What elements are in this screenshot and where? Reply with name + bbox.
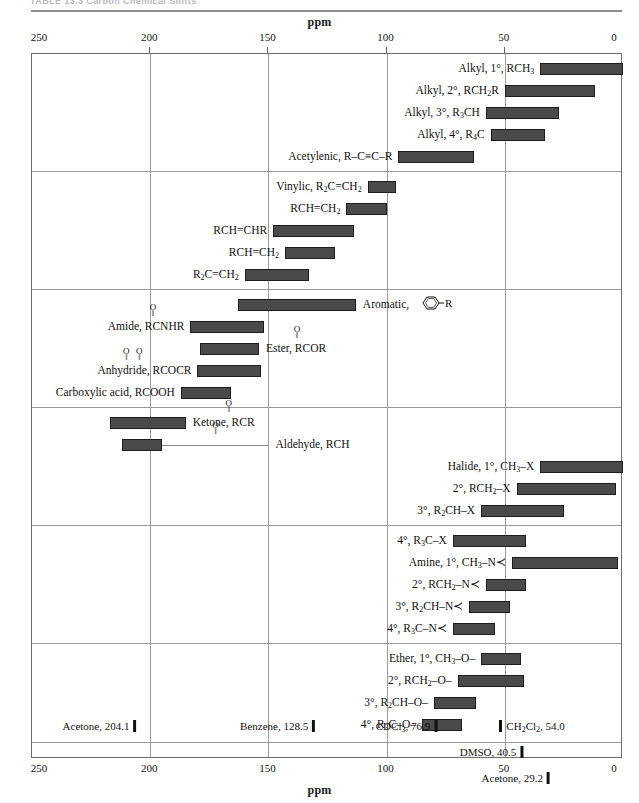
solvent-reference: CH2Cl2, 54.0 bbox=[495, 720, 564, 734]
chart-row: 3°, R2CH–O– bbox=[32, 692, 621, 714]
chart-row: 3°, R2CH–N≺ bbox=[32, 596, 621, 618]
chart-row: Vinylic, R2C=CH2 bbox=[32, 176, 621, 198]
solvent-reference: DMSO, 40.5 bbox=[460, 746, 528, 758]
row-label: Acetylenic, R–C≡C–R bbox=[288, 149, 392, 164]
range-bar bbox=[200, 343, 259, 355]
row-label: Alkyl, 2°, RCH2R bbox=[415, 83, 498, 101]
axis-tick-label-150: 150 bbox=[259, 762, 276, 774]
solvent-label: Acetone, 29.2 bbox=[482, 772, 543, 784]
range-bar bbox=[540, 461, 623, 473]
solvent-tick-mark bbox=[134, 720, 137, 732]
chart-row: 4°, R3C–N≺ bbox=[32, 618, 621, 640]
section-divider bbox=[32, 643, 621, 644]
range-bar bbox=[512, 557, 618, 569]
leader-line bbox=[162, 445, 268, 446]
range-bar bbox=[197, 365, 261, 377]
axis-tick-label-0: 0 bbox=[611, 762, 617, 774]
axis-title-bottom: ppm bbox=[0, 783, 639, 798]
axis-tick-label-100: 100 bbox=[377, 31, 394, 43]
row-label: RCH=CH2 bbox=[229, 245, 279, 263]
solvent-label: Acetone, 204.1 bbox=[63, 720, 130, 732]
range-bar bbox=[453, 623, 496, 635]
chart-row: Halide, 1°, CH3–X bbox=[32, 456, 621, 478]
solvent-reference: Acetone, 204.1 bbox=[63, 720, 141, 732]
range-bar bbox=[453, 535, 526, 547]
chart-row: RCH=CH2 bbox=[32, 198, 621, 220]
carbonyl-group-icon: O‖ bbox=[148, 304, 158, 317]
chart-row: Amine, 1°, CH3–N≺ bbox=[32, 552, 621, 574]
chart-row: Alkyl, 3°, R3CH bbox=[32, 102, 621, 124]
solvent-reference: CDCl3, 76.9 bbox=[376, 720, 441, 734]
row-label: 2°, RCH2–N≺ bbox=[412, 577, 480, 595]
row-label: Amine, 1°, CH3–N≺ bbox=[409, 555, 506, 573]
row-label: 4°, R3C–N≺ bbox=[387, 621, 447, 639]
carbonyl-group-icon: O‖ bbox=[292, 326, 302, 339]
range-bar bbox=[190, 321, 263, 333]
row-label: Anhydride, RCOCR bbox=[98, 363, 192, 378]
chart-row: 2°, RCH2–X bbox=[32, 478, 621, 500]
range-bar bbox=[517, 483, 616, 495]
carbonyl-group-icon: O‖ bbox=[121, 348, 131, 361]
row-label: Aldehyde, RCH bbox=[275, 437, 349, 452]
section-divider bbox=[32, 407, 621, 408]
row-label: 3°, R2CH–X bbox=[417, 503, 475, 521]
chart-row: Anhydride, RCOCRO‖O‖ bbox=[32, 360, 621, 382]
axis-tick-label-50: 50 bbox=[498, 31, 509, 43]
row-label: Ether, 1°, CH3–O– bbox=[389, 651, 475, 669]
range-bar bbox=[346, 203, 386, 215]
solvent-label: CH2Cl2, 54.0 bbox=[506, 720, 564, 732]
chart-row: Carboxylic acid, RCOOH bbox=[32, 382, 621, 404]
solvent-tick-mark bbox=[547, 772, 550, 784]
row-label: 2°, RCH2–O– bbox=[388, 673, 452, 691]
chart-row: Aldehyde, RCHO‖ bbox=[32, 434, 621, 456]
axis-title-top: ppm bbox=[0, 15, 639, 30]
solvent-label: CDCl3, 76.9 bbox=[376, 720, 430, 732]
row-label: 4°, R3C–X bbox=[397, 533, 447, 551]
row-label: RCH=CH2 bbox=[290, 201, 340, 219]
range-bar bbox=[368, 181, 396, 193]
header-rule bbox=[31, 10, 622, 12]
solvent-reference: Acetone, 29.2 bbox=[482, 772, 554, 784]
chart-row: Alkyl, 4°, R4C bbox=[32, 124, 621, 146]
range-bar bbox=[505, 85, 595, 97]
chart-row: Amide, RCNHRO‖ bbox=[32, 316, 621, 338]
row-label: R2C=CH2 bbox=[193, 267, 239, 285]
axis-tick-label-200: 200 bbox=[141, 762, 158, 774]
row-label: 3°, R2CH–N≺ bbox=[396, 599, 464, 617]
solvent-reference: Benzene, 128.5 bbox=[240, 720, 319, 732]
row-label: Vinylic, R2C=CH2 bbox=[276, 179, 361, 197]
range-bar bbox=[398, 151, 474, 163]
chart-row: R2C=CH2 bbox=[32, 264, 621, 286]
solvent-section-divider bbox=[32, 742, 621, 743]
range-bar bbox=[238, 299, 356, 311]
chart-row: Ether, 1°, CH3–O– bbox=[32, 648, 621, 670]
chart-row: 3°, R2CH–X bbox=[32, 500, 621, 522]
row-label: Aromatic, bbox=[363, 297, 409, 312]
solvent-label: DMSO, 40.5 bbox=[460, 746, 517, 758]
range-bar bbox=[469, 601, 509, 613]
range-bar bbox=[285, 247, 335, 259]
carbonyl-group-icon: O‖ bbox=[134, 348, 144, 361]
section-divider bbox=[32, 525, 621, 526]
chart-row: Aromatic,R bbox=[32, 294, 621, 316]
carbonyl-group-icon: O‖ bbox=[224, 400, 234, 413]
range-bar bbox=[458, 675, 524, 687]
axis-tick-label-250: 250 bbox=[31, 762, 48, 774]
range-bar bbox=[491, 129, 545, 141]
range-bar bbox=[110, 417, 186, 429]
chart-row: RCH=CHR bbox=[32, 220, 621, 242]
axis-tick-label-100: 100 bbox=[377, 762, 394, 774]
chart-row: Acetylenic, R–C≡C–R bbox=[32, 146, 621, 168]
row-label: 2°, RCH2–X bbox=[453, 481, 511, 499]
range-bar bbox=[540, 63, 623, 75]
row-label: Halide, 1°, CH3–X bbox=[448, 459, 535, 477]
axis-tick-label-150: 150 bbox=[259, 31, 276, 43]
row-label: 3°, R2CH–O– bbox=[364, 695, 428, 713]
section-divider bbox=[32, 289, 621, 290]
solvent-label: Benzene, 128.5 bbox=[240, 720, 308, 732]
row-label: Carboxylic acid, RCOOH bbox=[56, 385, 175, 400]
axis-tick-label-250: 250 bbox=[31, 31, 48, 43]
range-bar bbox=[481, 653, 521, 665]
solvent-tick-mark bbox=[434, 720, 437, 732]
row-label: Alkyl, 3°, R3CH bbox=[404, 105, 480, 123]
